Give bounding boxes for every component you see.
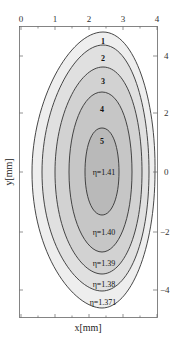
contour-label-3: 3	[101, 77, 105, 86]
y-tick-m2: −2	[160, 227, 170, 237]
x-axis-title: x[mm]	[74, 322, 101, 333]
x-tick-3: 3	[121, 14, 126, 24]
contour-chart: 0 1 2 3 4 4 2 0 −2 −4 1 2 3 4 5 η=1.41 η…	[0, 0, 183, 342]
y-axis-title: y[mm]	[3, 158, 14, 185]
eta-label-1: η=1.371	[90, 298, 117, 307]
contour-label-1: 1	[101, 37, 105, 46]
y-tick-m4: −4	[160, 285, 170, 295]
x-ticks-bottom	[21, 314, 157, 318]
y-tick-4: 4	[164, 51, 169, 61]
x-tick-1: 1	[53, 14, 58, 24]
eta-label-3: η=1.39	[93, 259, 116, 268]
eta-label-4: η=1.40	[93, 228, 116, 237]
x-tick-0: 0	[19, 14, 24, 24]
y-tick-2: 2	[164, 108, 169, 118]
contour-label-4: 4	[100, 105, 104, 114]
x-tick-4: 4	[155, 14, 160, 24]
chart-canvas: 0 1 2 3 4 4 2 0 −2 −4 1 2 3 4 5 η=1.41 η…	[0, 0, 183, 342]
contour-label-2: 2	[101, 54, 105, 63]
x-tick-2: 2	[87, 14, 92, 24]
eta-label-5: η=1.41	[93, 168, 116, 177]
eta-label-2: η=1.38	[93, 280, 116, 289]
contour-label-5: 5	[100, 137, 104, 146]
y-tick-0: 0	[164, 167, 169, 177]
y-ticks-left	[20, 56, 24, 290]
x-ticks-top	[21, 27, 157, 31]
